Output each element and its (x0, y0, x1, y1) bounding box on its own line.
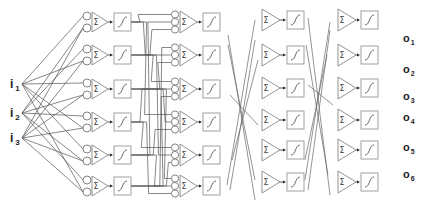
input-wire (22, 28, 83, 113)
hidden-wire (131, 63, 171, 90)
weight-input-circle (171, 111, 178, 118)
hidden-wire (131, 89, 171, 122)
neuron-layers: ΣΣΣΣΣΣΣΣΣΣΣΣΣΣΣΣΣΣΣΣΣΣΣΣ (83, 9, 378, 197)
sigma-icon: Σ (182, 18, 187, 27)
input-wire (22, 128, 83, 138)
input-wire (22, 95, 83, 113)
weight-input-circle (171, 51, 178, 58)
weight-input-circle (171, 26, 178, 33)
neuron: Σ (171, 11, 220, 33)
hidden-wire (131, 30, 171, 56)
weight-input-circle (83, 24, 91, 32)
neuron: Σ (171, 175, 220, 197)
connection-wires (22, 15, 171, 194)
input-wire (22, 16, 83, 84)
input-wire (22, 95, 83, 138)
cross-wire (232, 60, 258, 160)
neuron: Σ (262, 44, 304, 66)
weight-input-circle (171, 44, 178, 51)
input-wire (22, 113, 83, 116)
output-label-4: o4 (403, 111, 415, 125)
sigma-icon: Σ (340, 84, 345, 93)
neuron: Σ (83, 79, 131, 99)
output-label-6: o6 (403, 168, 415, 182)
layer-3: ΣΣΣΣΣΣ (262, 9, 304, 193)
neuron: Σ (338, 139, 378, 161)
neuron: Σ (338, 109, 378, 131)
neuron: Σ (83, 112, 131, 132)
weight-input-circle (83, 176, 91, 184)
sigma-icon: Σ (182, 51, 187, 60)
weight-input-circle (83, 188, 91, 196)
sigma-icon: Σ (182, 151, 187, 160)
output-labels: o1o2o3o4o5o6 (403, 32, 415, 182)
sigma-icon: Σ (264, 146, 269, 155)
neuron: Σ (171, 144, 220, 166)
input-label-1: i1 (10, 77, 20, 93)
cross-wire (230, 95, 258, 125)
sigma-icon: Σ (264, 116, 269, 125)
weight-input-circle (83, 112, 91, 120)
cross-wire (305, 22, 330, 180)
weight-input-circle (83, 91, 91, 99)
weight-input-circle (171, 78, 178, 85)
hidden-wire (131, 22, 171, 115)
hidden-wire (131, 89, 171, 179)
cross-wire (308, 85, 333, 105)
neuron: Σ (171, 111, 220, 133)
hidden-wire (131, 55, 171, 82)
input-wire (22, 113, 83, 161)
sigma-icon: Σ (182, 182, 187, 191)
sigma-icon: Σ (340, 16, 345, 25)
weight-input-circle (171, 126, 178, 133)
layer-1: ΣΣΣΣΣΣ (83, 12, 131, 196)
sigma-icon: Σ (264, 84, 269, 93)
weight-input-circle (83, 157, 91, 165)
neuron: Σ (171, 44, 220, 66)
neuron: Σ (83, 145, 131, 165)
weight-input-circle (83, 124, 91, 132)
input-label-2: i2 (10, 106, 20, 122)
sigma-icon: Σ (340, 51, 345, 60)
sigma-icon: Σ (94, 182, 99, 191)
neuron: Σ (338, 9, 378, 31)
neuron: Σ (262, 171, 304, 193)
weight-input-circle (171, 59, 178, 66)
input-label-3: i3 (10, 131, 20, 147)
sigma-icon: Σ (94, 18, 99, 27)
weight-input-circle (171, 190, 178, 197)
sigma-icon: Σ (94, 118, 99, 127)
cross-wire (230, 40, 255, 190)
neural-network-diagram: ΣΣΣΣΣΣΣΣΣΣΣΣΣΣΣΣΣΣΣΣΣΣΣΣ i1i2i3 o1o2o3o4… (0, 0, 437, 211)
neuron: Σ (83, 12, 131, 32)
input-wire (22, 49, 83, 113)
neuron: Σ (338, 77, 378, 99)
neuron: Σ (262, 77, 304, 99)
weight-input-circle (171, 118, 178, 125)
sigma-icon: Σ (340, 116, 345, 125)
neuron: Σ (262, 9, 304, 31)
neuron: Σ (262, 109, 304, 131)
weight-input-circle (171, 182, 178, 189)
sigma-icon: Σ (264, 178, 269, 187)
weight-input-circle (171, 85, 178, 92)
weight-input-circle (171, 93, 178, 100)
output-label-2: o2 (403, 63, 415, 77)
sigma-icon: Σ (94, 51, 99, 60)
sigma-icon: Σ (94, 151, 99, 160)
cross-connections (227, 18, 333, 200)
weight-input-circle (83, 45, 91, 53)
sigma-icon: Σ (340, 178, 345, 187)
weight-input-circle (171, 159, 178, 166)
neuron: Σ (338, 44, 378, 66)
weight-input-circle (171, 175, 178, 182)
neuron: Σ (262, 139, 304, 161)
output-label-1: o1 (403, 32, 415, 46)
layer-4: ΣΣΣΣΣΣ (338, 9, 378, 193)
output-label-3: o3 (403, 90, 415, 104)
neuron: Σ (83, 176, 131, 196)
neuron: Σ (171, 78, 220, 100)
input-wire (22, 138, 83, 161)
weight-input-circle (171, 11, 178, 18)
sigma-icon: Σ (264, 16, 269, 25)
